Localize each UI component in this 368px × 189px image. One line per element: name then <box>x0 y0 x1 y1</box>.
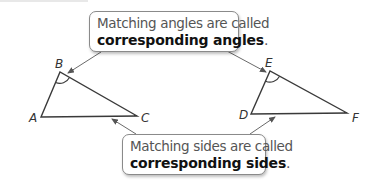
vertex-label-d: D <box>239 109 248 121</box>
vertex-label-b: B <box>55 58 63 70</box>
vertex-label-e: E <box>265 57 273 69</box>
arrow-to-angle-e <box>227 51 266 72</box>
callout-sides-text: Matching sides are called <box>130 138 265 155</box>
triangle-abc <box>41 72 137 117</box>
arrow-to-side-df <box>250 117 275 134</box>
vertex-label-c: C <box>141 112 149 124</box>
callout-sides-period: . <box>286 155 290 171</box>
callout-angles-term-line: corresponding angles. <box>97 32 238 49</box>
callout-angles-text: Matching angles are called <box>97 15 238 32</box>
callout-angles-period: . <box>264 32 268 48</box>
term-corresponding-angles: corresponding angles <box>97 32 264 48</box>
vertex-label-a: A <box>29 112 37 124</box>
arrow-to-angle-b <box>68 52 101 73</box>
callout-corresponding-angles: Matching angles are called corresponding… <box>89 11 239 52</box>
vertex-label-f: F <box>352 112 359 124</box>
arrow-to-side-ac <box>112 119 136 134</box>
callout-sides-term-line: corresponding sides. <box>130 155 265 172</box>
corresponding-parts-diagram: A B C D E F Matching angles are called c… <box>0 0 368 189</box>
term-corresponding-sides: corresponding sides <box>130 155 286 171</box>
callout-corresponding-sides: Matching sides are called corresponding … <box>122 134 266 175</box>
triangle-def <box>251 71 347 114</box>
